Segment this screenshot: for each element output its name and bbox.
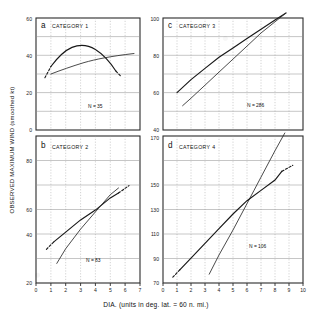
panel-a-yaxis: 0 20 40 60: [26, 16, 32, 133]
panel-c-ytick-3: 100: [151, 16, 160, 22]
panel-d-ytick-2: 110: [151, 231, 159, 237]
figure-svg: .frame{fill:none;stroke:#2b2b2b;stroke-w…: [0, 0, 313, 320]
panel-d-ytick-1: 90: [153, 256, 159, 262]
panel-d-xtick-7: 7: [260, 287, 263, 293]
panel-b-xtick-5: 5: [109, 287, 112, 293]
x-axis-title: DIA. (units in deg. lat. = 60 n. mi.): [103, 301, 208, 309]
panel-a-ytick-0: 0: [29, 127, 32, 133]
panel-a-title: CATEGORY 1: [52, 23, 88, 29]
panel-a-series-parabolic: [45, 45, 121, 77]
panel-b-xtick-6: 6: [124, 287, 127, 293]
panel-a-ytick-2: 40: [26, 53, 32, 59]
panel-d-xtick-3: 3: [204, 287, 207, 293]
panel-d-series-shallow: [173, 165, 293, 277]
panel-d-xtick-8: 8: [274, 287, 277, 293]
panel-d-xtick-1: 1: [176, 287, 179, 293]
panel-b-ytick-2: 60: [26, 207, 32, 213]
panel-d-ytick-4: 150: [151, 182, 160, 188]
panel-d-yaxis: 70 90 110 130 150 170: [151, 135, 160, 286]
panel-c-title: CATEGORY 3: [179, 23, 215, 29]
y-axis-title: OBSERVED MAXIMUM WIND (smoothed kt): [9, 87, 15, 214]
panel-b-xtick-2: 2: [64, 287, 67, 293]
panel-d: d CATEGORY 4 N = 106 70 90 110 130 150 1…: [151, 133, 306, 293]
panel-c-gridlines: [163, 18, 303, 130]
panel-d-xtick-6: 6: [246, 287, 249, 293]
panel-b-xtick-7: 7: [139, 287, 142, 293]
panel-b: b CATEGORY 2 N = 83 20 40 60 80: [26, 136, 141, 293]
panel-c-annotation: N = 286: [247, 103, 265, 108]
panel-d-xtick-9: 9: [288, 287, 291, 293]
panel-d-xtick-0: 0: [162, 287, 165, 293]
panel-b-series-upper: [46, 186, 129, 250]
panel-d-title: CATEGORY 4: [179, 144, 215, 150]
panel-b-ytick-1: 40: [26, 232, 32, 238]
panel-a-letter: a: [41, 21, 46, 30]
panel-b-xtick-0: 0: [35, 287, 38, 293]
panel-d-letter: d: [168, 141, 173, 150]
panel-d-xtick-5: 5: [232, 287, 235, 293]
panel-d-xtick-10: 10: [300, 287, 306, 293]
panel-d-ytick-0: 70: [153, 280, 159, 286]
panel-b-yaxis: 20 40 60 80: [26, 158, 32, 286]
panel-a-ytick-1: 20: [26, 90, 32, 96]
panel-b-xtick-4: 4: [94, 287, 97, 293]
panel-b-ytick-3: 80: [26, 158, 32, 164]
panel-a-series-linear: [51, 54, 134, 75]
panel-b-title: CATEGORY 2: [52, 144, 88, 150]
panel-d-xaxis: 0 1 2 3 4 5 6 7 8 9 10: [162, 283, 306, 293]
panel-d-xtick-2: 2: [190, 287, 193, 293]
panel-c-ytick-2: 80: [153, 53, 159, 59]
panel-b-letter: b: [41, 141, 46, 150]
panel-b-ytick-0: 20: [26, 280, 32, 286]
panel-c-yaxis: 40 60 80 100: [151, 16, 160, 133]
figure-container: .frame{fill:none;stroke:#2b2b2b;stroke-w…: [0, 0, 313, 320]
panel-d-ytick-5: 170: [151, 135, 160, 141]
panel-b-xaxis: 0 1 2 3 4 5 6 7: [35, 283, 142, 293]
panel-c-letter: c: [168, 21, 172, 30]
panel-b-xtick-3: 3: [79, 287, 82, 293]
panel-c: c CATEGORY 3 N = 286 40 60 80 100: [151, 13, 304, 133]
panel-d-series-steep: [209, 133, 285, 274]
panel-c-ytick-0: 40: [153, 127, 159, 133]
panel-d-gridlines: [163, 136, 303, 283]
panel-c-ytick-1: 60: [153, 90, 159, 96]
panel-a-annotation: N = 35: [88, 104, 103, 109]
panel-b-xtick-1: 1: [49, 287, 52, 293]
panel-d-ytick-3: 130: [151, 207, 160, 213]
panel-a-ytick-3: 60: [26, 16, 32, 22]
panel-d-xtick-4: 4: [218, 287, 221, 293]
panel-d-annotation: N = 106: [249, 244, 267, 249]
panel-a: a CATEGORY 1 N = 35 0 20 40 60: [26, 16, 140, 133]
panel-b-annotation: N = 83: [86, 258, 101, 263]
